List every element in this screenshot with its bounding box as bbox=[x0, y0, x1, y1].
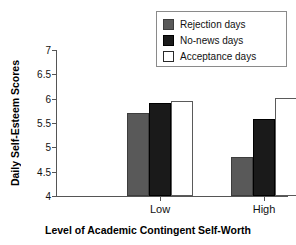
x-axis-title: Level of Academic Contingent Self-Worth bbox=[0, 224, 296, 236]
y-axis-title-text: Daily Self-Esteem Scores bbox=[9, 60, 21, 186]
y-tick-label: 7 bbox=[45, 45, 51, 56]
bar-low-no-news-days bbox=[149, 103, 171, 196]
y-tick-mark bbox=[52, 196, 56, 197]
legend-item-no-news-days: No-news days bbox=[163, 32, 281, 48]
legend-swatch-rejection-days bbox=[163, 19, 174, 30]
legend-item-rejection-days: Rejection days bbox=[163, 16, 281, 32]
x-axis-label-high: High bbox=[253, 203, 276, 215]
y-tick-mark bbox=[52, 74, 56, 75]
bar-chart-figure: Rejection days No-news days Acceptance d… bbox=[0, 0, 296, 245]
legend-swatch-no-news-days bbox=[163, 35, 174, 46]
y-tick-mark bbox=[52, 123, 56, 124]
plot-area: 76.565.554.54 LowHigh bbox=[56, 50, 288, 197]
legend-label-rejection-days: Rejection days bbox=[180, 19, 246, 30]
x-tick-mark-low bbox=[160, 197, 161, 201]
x-tick-mark-high bbox=[264, 197, 265, 201]
x-axis-label-low: Low bbox=[150, 203, 170, 215]
y-tick-label: 6.5 bbox=[37, 69, 51, 80]
y-tick-mark bbox=[52, 147, 56, 148]
y-tick-mark bbox=[52, 99, 56, 100]
bar-high-no-news-days bbox=[253, 119, 275, 196]
y-tick-label: 5.5 bbox=[37, 118, 51, 129]
y-tick-mark bbox=[52, 172, 56, 173]
legend-label-no-news-days: No-news days bbox=[180, 35, 243, 46]
y-tick-label: 4 bbox=[45, 191, 51, 202]
y-tick-mark bbox=[52, 50, 56, 51]
y-tick-label: 6 bbox=[45, 93, 51, 104]
x-axis-line bbox=[56, 196, 288, 197]
y-axis-title: Daily Self-Esteem Scores bbox=[6, 50, 24, 197]
bar-low-acceptance-days bbox=[171, 101, 193, 196]
y-tick-label: 4.5 bbox=[37, 166, 51, 177]
bar-high-rejection-days bbox=[231, 157, 253, 196]
y-axis-line bbox=[56, 50, 57, 197]
bar-high-acceptance-days bbox=[275, 98, 296, 196]
y-tick-label: 5 bbox=[45, 142, 51, 153]
bar-low-rejection-days bbox=[127, 113, 149, 196]
